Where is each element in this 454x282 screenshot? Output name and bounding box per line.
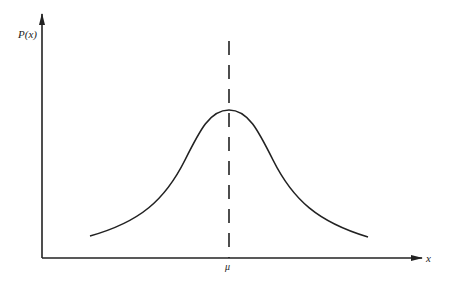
chart-plot xyxy=(0,0,454,282)
y-axis-label: P(x) xyxy=(18,28,37,40)
x-axis-label: x xyxy=(426,252,431,264)
mu-tick-label: μ xyxy=(225,261,230,272)
chart: P(x) x μ xyxy=(0,0,454,282)
